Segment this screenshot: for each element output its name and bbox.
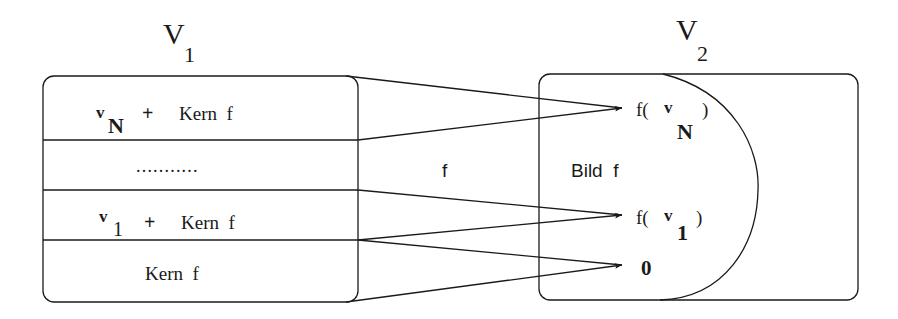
plus-sign: + <box>144 211 155 233</box>
zero-vector: 0 <box>641 256 652 280</box>
v2-box <box>539 74 858 300</box>
arrow-kernel <box>346 240 622 302</box>
v2-subscript: 2 <box>697 41 708 66</box>
map-label: f <box>442 160 448 181</box>
f-open-paren: f( <box>636 207 649 229</box>
row-kernel: Kern f <box>145 263 199 284</box>
vector-subscript: 1 <box>677 220 688 245</box>
image-label: Bild f <box>571 160 619 181</box>
kern-label: Kern f <box>181 212 235 233</box>
kern-label: Kern f <box>179 103 233 124</box>
linear-map-diagram: V 1 V 2 v N + Kern f ........... v 1 + K… <box>0 0 898 319</box>
plus-sign: + <box>142 102 153 124</box>
image-region-boundary <box>660 74 758 300</box>
vector-subscript: N <box>108 113 124 138</box>
arrow-vN-coset <box>346 76 622 140</box>
vector-subscript: 1 <box>113 218 123 240</box>
row-v1-coset: v 1 + Kern f <box>99 207 235 240</box>
close-paren: ) <box>696 207 702 229</box>
target-f-v1: f( v 1 ) <box>636 206 702 245</box>
v1-subscript: 1 <box>184 42 195 67</box>
target-f-vN: f( v N ) <box>636 98 708 144</box>
row-vN-coset: v N + Kern f <box>96 102 233 138</box>
v1-label: V <box>163 17 185 50</box>
vector-v: v <box>96 103 105 122</box>
vector-v: v <box>99 207 108 226</box>
close-paren: ) <box>702 99 708 121</box>
vector-v: v <box>664 98 673 117</box>
ellipsis-row: ........... <box>136 156 199 176</box>
vector-v: v <box>664 206 673 225</box>
v2-label: V <box>676 13 698 46</box>
f-open-paren: f( <box>636 99 649 121</box>
arrow-v1-coset <box>358 190 622 240</box>
vector-subscript: N <box>677 119 693 144</box>
